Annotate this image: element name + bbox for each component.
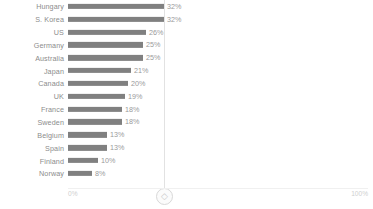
bar-value-label: 25% bbox=[143, 53, 160, 62]
bar-row: Australia25% bbox=[0, 51, 373, 64]
bar[interactable] bbox=[68, 55, 143, 60]
bar-category-label: Germany bbox=[34, 40, 64, 49]
bar-track: 19% bbox=[68, 90, 368, 103]
bar[interactable] bbox=[68, 106, 122, 111]
bar[interactable] bbox=[68, 158, 98, 163]
bar-track: 21% bbox=[68, 64, 368, 77]
bar-row: France18% bbox=[0, 103, 373, 116]
bar-category-label: Spain bbox=[45, 143, 64, 152]
bar[interactable] bbox=[68, 171, 92, 176]
bar-chart: Hungary32%S. Korea32%US26%Germany25%Aust… bbox=[0, 0, 373, 209]
bar-category-label: UK bbox=[54, 92, 64, 101]
bar-row: S. Korea32% bbox=[0, 13, 373, 26]
bar[interactable] bbox=[68, 132, 107, 137]
bar-value-label: 13% bbox=[107, 130, 124, 139]
bar-value-label: 19% bbox=[125, 92, 142, 101]
bar-category-label: Finland bbox=[40, 156, 64, 165]
bar-category-label: Japan bbox=[44, 66, 64, 75]
bar[interactable] bbox=[68, 4, 164, 9]
vertical-reference-line[interactable] bbox=[164, 0, 165, 190]
bar-row: UK19% bbox=[0, 90, 373, 103]
bar[interactable] bbox=[68, 17, 164, 22]
bar-track: 32% bbox=[68, 0, 368, 13]
bar[interactable] bbox=[68, 145, 107, 150]
bar-category-label: Sweden bbox=[37, 118, 64, 127]
x-axis: 0% 100% bbox=[0, 188, 373, 202]
bar-category-label: Australia bbox=[35, 53, 64, 62]
bar[interactable] bbox=[68, 68, 131, 73]
bar-track: 20% bbox=[68, 77, 368, 90]
bar-row: Canada20% bbox=[0, 77, 373, 90]
x-axis-line bbox=[68, 188, 368, 189]
bar-track: 25% bbox=[68, 51, 368, 64]
bar-row: Hungary32% bbox=[0, 0, 373, 13]
bar-category-label: US bbox=[54, 28, 64, 37]
x-axis-tick-min: 0% bbox=[68, 190, 78, 197]
bar-value-label: 10% bbox=[98, 156, 115, 165]
bar-value-label: 26% bbox=[146, 28, 163, 37]
bar-row: US26% bbox=[0, 26, 373, 39]
bar-track: 18% bbox=[68, 103, 368, 116]
bar-value-label: 13% bbox=[107, 143, 124, 152]
bar-track: 10% bbox=[68, 154, 368, 167]
bar-row: Sweden18% bbox=[0, 116, 373, 129]
bar-value-label: 21% bbox=[131, 66, 148, 75]
bar-row: Germany25% bbox=[0, 39, 373, 52]
bar-track: 18% bbox=[68, 116, 368, 129]
bar[interactable] bbox=[68, 119, 122, 124]
bar-track: 8% bbox=[68, 167, 368, 180]
bar-row: Japan21% bbox=[0, 64, 373, 77]
bar-row: Finland10% bbox=[0, 154, 373, 167]
bar-category-label: France bbox=[41, 105, 64, 114]
bar-value-label: 20% bbox=[128, 79, 145, 88]
bar-track: 26% bbox=[68, 26, 368, 39]
bar[interactable] bbox=[68, 81, 128, 86]
bar[interactable] bbox=[68, 42, 143, 47]
bar-track: 32% bbox=[68, 13, 368, 26]
plot-area: Hungary32%S. Korea32%US26%Germany25%Aust… bbox=[0, 0, 373, 186]
bar-value-label: 32% bbox=[164, 15, 181, 24]
bar-row: Belgium13% bbox=[0, 128, 373, 141]
bar-value-label: 32% bbox=[164, 2, 181, 11]
bar-value-label: 25% bbox=[143, 40, 160, 49]
bar-row: Spain13% bbox=[0, 141, 373, 154]
bar-category-label: S. Korea bbox=[35, 15, 64, 24]
bar-value-label: 18% bbox=[122, 105, 139, 114]
bar-track: 25% bbox=[68, 39, 368, 52]
bar-row: Norway8% bbox=[0, 167, 373, 180]
bar-value-label: 8% bbox=[92, 169, 105, 178]
bar[interactable] bbox=[68, 94, 125, 99]
bar[interactable] bbox=[68, 29, 146, 34]
bar-category-label: Norway bbox=[39, 169, 64, 178]
bar-category-label: Belgium bbox=[37, 130, 64, 139]
x-axis-tick-max: 100% bbox=[351, 190, 368, 197]
bar-value-label: 18% bbox=[122, 118, 139, 127]
bar-category-label: Hungary bbox=[36, 2, 64, 11]
bar-track: 13% bbox=[68, 128, 368, 141]
bar-category-label: Canada bbox=[38, 79, 64, 88]
bar-track: 13% bbox=[68, 141, 368, 154]
